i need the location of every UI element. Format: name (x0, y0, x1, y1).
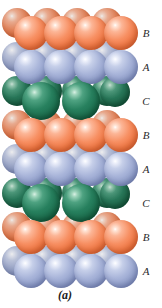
sphere-front (44, 152, 78, 186)
sphere-front (74, 152, 108, 186)
sphere-front (14, 16, 48, 50)
sphere-front (104, 50, 138, 84)
figure-caption: (a) (0, 288, 130, 303)
sphere-front (62, 82, 100, 120)
sphere-front (104, 220, 138, 254)
sphere-front (104, 152, 138, 186)
sphere-front (14, 152, 48, 186)
sphere-front (104, 118, 138, 152)
layer-label-c: C (130, 95, 162, 107)
sphere-front (44, 118, 78, 152)
sphere-stack (0, 0, 130, 290)
sphere-front (14, 118, 48, 152)
sphere-front (74, 254, 108, 288)
sphere-front (74, 118, 108, 152)
sphere-front (74, 50, 108, 84)
sphere-front (104, 16, 138, 50)
sphere-front (74, 220, 108, 254)
sphere-front (44, 254, 78, 288)
layer-label-c: C (130, 197, 162, 209)
sphere-front (74, 16, 108, 50)
sphere-front (104, 254, 138, 288)
sphere-front (14, 50, 48, 84)
sphere-front (22, 184, 60, 222)
sphere-front (14, 254, 48, 288)
sphere-front (44, 50, 78, 84)
close-packed-stacking-figure: BACBACBA (a) (0, 0, 162, 308)
sphere-front (14, 220, 48, 254)
sphere-front (44, 16, 78, 50)
sphere-front (62, 184, 100, 222)
sphere-front (44, 220, 78, 254)
sphere-front (22, 82, 60, 120)
